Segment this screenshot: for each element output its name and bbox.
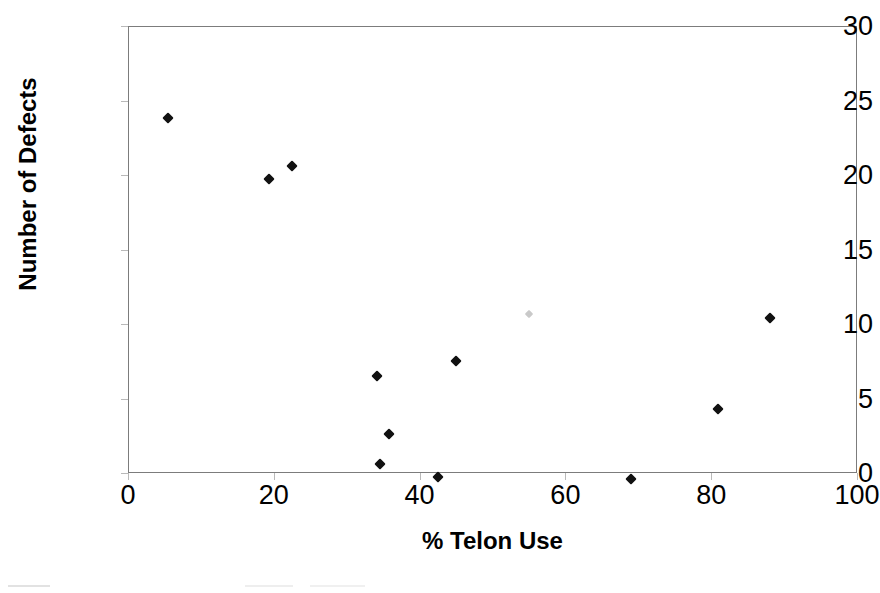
x-axis-tick-label: 0 xyxy=(120,482,135,509)
y-axis-tick-label: 20 xyxy=(761,162,873,189)
y-axis-tick-label: 30 xyxy=(761,13,873,40)
y-axis-tick-mark xyxy=(121,26,128,27)
x-axis-tick-label: 20 xyxy=(259,482,289,509)
x-axis-tick-label: 60 xyxy=(550,482,580,509)
y-axis-tick-mark xyxy=(121,324,128,325)
x-axis-tick-mark xyxy=(128,473,129,480)
x-axis-tick-mark xyxy=(711,473,712,480)
scan-artifact xyxy=(245,585,293,587)
scan-artifact xyxy=(310,585,365,587)
y-axis-tick-mark xyxy=(121,175,128,176)
y-axis-tick-label: 10 xyxy=(761,311,873,338)
y-axis-tick-mark xyxy=(121,101,128,102)
x-axis-tick-mark xyxy=(274,473,275,480)
x-axis-tick-label: 100 xyxy=(834,482,879,509)
x-axis-tick-mark xyxy=(857,473,858,480)
y-axis-tick-mark xyxy=(121,399,128,400)
x-axis-tick-label: 80 xyxy=(696,482,726,509)
scan-artifact xyxy=(8,585,50,587)
y-axis-title: Number of Defects xyxy=(14,14,42,354)
data-point-marker xyxy=(625,473,636,484)
y-axis-tick-label: 15 xyxy=(761,236,873,263)
y-axis-tick-label: 25 xyxy=(761,87,873,114)
y-axis-tick-mark xyxy=(121,473,128,474)
x-axis-tick-mark xyxy=(565,473,566,480)
x-axis-tick-label: 40 xyxy=(405,482,435,509)
x-axis-title: % Telon Use xyxy=(128,527,857,555)
y-axis-tick-label: 5 xyxy=(761,385,873,412)
x-axis-tick-mark xyxy=(420,473,421,480)
plot-area xyxy=(128,26,857,473)
y-axis-tick-mark xyxy=(121,250,128,251)
